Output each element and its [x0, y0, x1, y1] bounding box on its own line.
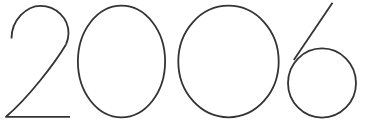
year-artwork-canvas: 2006 [0, 0, 366, 127]
canvas-background [0, 0, 366, 127]
year-numerals-svg [0, 0, 366, 127]
